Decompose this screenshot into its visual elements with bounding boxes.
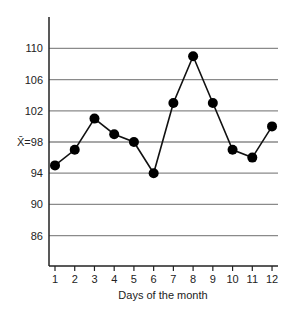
data-point — [168, 98, 178, 108]
y-tick-labels: 869094X̄=98102106110 — [17, 42, 43, 241]
x-tick-label: 9 — [210, 273, 216, 285]
y-tick-label: 90 — [31, 198, 43, 210]
x-tick-label: 11 — [247, 273, 258, 285]
gridlines — [49, 48, 278, 235]
x-tick-label: 8 — [190, 273, 196, 285]
x-tick-label: 3 — [91, 273, 97, 285]
x-tick-label: 6 — [151, 273, 157, 285]
x-tick-label: 12 — [266, 273, 278, 285]
x-tick-label: 1 — [52, 273, 58, 285]
data-point — [89, 114, 99, 124]
x-axis-title: Days of the month — [118, 289, 207, 301]
data-point — [208, 98, 218, 108]
control-chart: 869094X̄=98102106110 123456789101112 Day… — [0, 0, 295, 318]
data-point — [247, 153, 257, 163]
data-point — [149, 168, 159, 178]
data-series — [50, 51, 277, 178]
data-point — [109, 129, 119, 139]
y-tick-label: 86 — [31, 230, 43, 242]
data-point — [70, 145, 80, 155]
data-point — [188, 51, 198, 61]
data-point — [267, 121, 277, 131]
y-tick-label: 110 — [25, 42, 43, 54]
y-tick-label: X̄=98 — [17, 136, 43, 148]
x-tick-labels: 123456789101112 — [52, 266, 278, 285]
y-tick-label: 94 — [31, 167, 43, 179]
data-point — [228, 145, 238, 155]
x-tick-label: 10 — [226, 273, 238, 285]
x-tick-label: 5 — [131, 273, 137, 285]
x-tick-label: 4 — [111, 273, 117, 285]
data-point — [50, 160, 60, 170]
x-tick-label: 2 — [72, 273, 78, 285]
data-point — [129, 137, 139, 147]
y-tick-label: 106 — [25, 74, 43, 86]
y-tick-label: 102 — [25, 105, 43, 117]
series-line — [55, 56, 272, 173]
x-tick-label: 7 — [170, 273, 176, 285]
